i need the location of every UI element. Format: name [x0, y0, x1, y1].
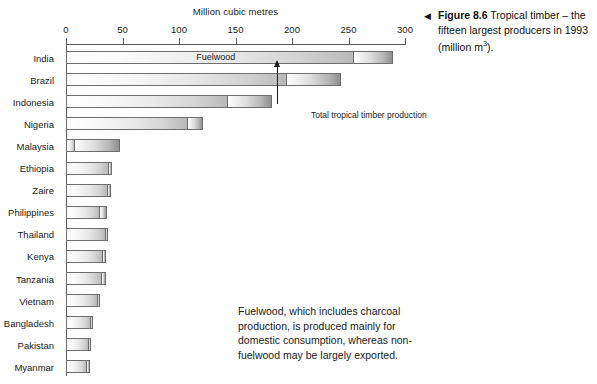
bar-row — [66, 95, 405, 108]
annotation-arrow-icon — [277, 66, 278, 104]
bar-row — [66, 206, 405, 219]
bar-segment-fuelwood — [66, 184, 108, 197]
bar-segment-fuelwood — [66, 95, 228, 108]
annotation-label: Total tropical timber production — [311, 110, 427, 120]
bar-segment-fuelwood — [66, 117, 188, 130]
bar-row — [66, 162, 405, 175]
caption-figure-number: Figure 8.6 — [438, 9, 488, 21]
bar-segment-fuelwood — [66, 294, 98, 307]
bar-segment-fuelwood — [66, 250, 103, 263]
chart-plot-area: Million cubic metres 050100150200250300 … — [0, 0, 420, 384]
bar-row — [66, 360, 405, 373]
x-tick-label: 100 — [171, 24, 187, 35]
bar-segment-non-fuelwood — [187, 117, 203, 130]
bar-row: Fuelwood — [66, 51, 405, 64]
bar-row — [66, 184, 405, 197]
bar-segment-fuelwood — [66, 162, 109, 175]
bar-segment-non-fuelwood — [102, 250, 105, 263]
x-tick-label: 300 — [397, 24, 413, 35]
bar-segment-non-fuelwood — [101, 272, 105, 285]
bar-segment-non-fuelwood — [227, 95, 272, 108]
bar-segment-non-fuelwood — [74, 139, 120, 152]
figure-container: Million cubic metres 050100150200250300 … — [0, 0, 597, 384]
bar-segment-non-fuelwood — [105, 228, 108, 241]
x-axis-title: Million cubic metres — [66, 6, 405, 17]
bar-row — [66, 139, 405, 152]
caption-text-2: ). — [487, 41, 493, 53]
bar-segment-fuelwood — [66, 73, 287, 86]
bar-segment-non-fuelwood — [88, 338, 91, 351]
caption-pointer-icon: ◀ — [424, 10, 431, 22]
bar-segment-fuelwood — [66, 360, 87, 373]
bar-segment-non-fuelwood — [86, 360, 89, 373]
bar-segment-non-fuelwood — [99, 206, 107, 219]
bar-segment-non-fuelwood — [97, 294, 100, 307]
bar-inline-label-fuelwood: Fuelwood — [196, 52, 235, 62]
bar-row — [66, 228, 405, 241]
bar-segment-non-fuelwood — [353, 51, 392, 64]
bar-segment-fuelwood — [66, 272, 102, 285]
bar-row — [66, 73, 405, 86]
bar-segment-fuelwood — [66, 338, 89, 351]
explanatory-note: Fuelwood, which includes charcoal produc… — [238, 304, 428, 362]
x-tick-label: 150 — [228, 24, 244, 35]
figure-caption: ◀ Figure 8.6 Tropical timber – the fifte… — [424, 8, 592, 54]
bar-segment-fuelwood — [66, 228, 106, 241]
bar-segment-non-fuelwood — [90, 316, 93, 329]
bar-row — [66, 250, 405, 263]
bar-segment-non-fuelwood — [286, 73, 340, 86]
bar-segment-fuelwood — [66, 206, 100, 219]
bar-segment-fuelwood — [66, 316, 91, 329]
bar-row — [66, 272, 405, 285]
x-tick-label: 0 — [63, 24, 68, 35]
x-axis-tick-labels: 050100150200250300 — [0, 24, 420, 36]
x-tick-label: 200 — [284, 24, 300, 35]
x-tick-label: 250 — [341, 24, 357, 35]
x-tick-label: 50 — [117, 24, 128, 35]
bar-segment-non-fuelwood — [107, 184, 111, 197]
bar-segment-non-fuelwood — [108, 162, 112, 175]
